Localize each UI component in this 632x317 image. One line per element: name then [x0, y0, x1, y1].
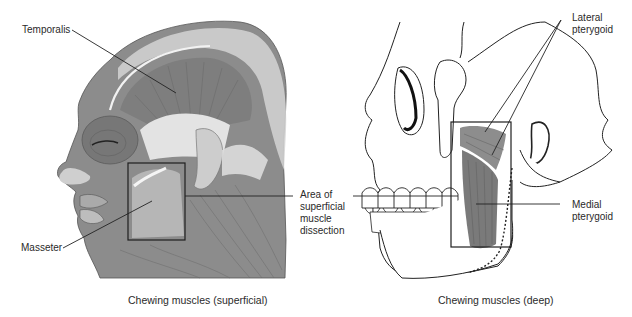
caption-deep: Chewing muscles (deep): [438, 294, 554, 306]
caption-superficial: Chewing muscles (superficial): [128, 294, 267, 306]
dissection-line-4: dissection: [300, 225, 345, 237]
label-masseter: Masseter: [21, 242, 62, 254]
lateral-pterygoid-line-1: Lateral: [572, 12, 613, 24]
dissection-line-2: superficial: [300, 201, 345, 213]
medial-pterygoid-line-2: pterygoid: [572, 211, 613, 223]
label-temporalis: Temporalis: [22, 24, 70, 36]
dissection-line-3: muscle: [300, 213, 345, 225]
label-lateral-pterygoid: Lateral pterygoid: [572, 12, 613, 36]
label-medial-pterygoid: Medial pterygoid: [572, 199, 613, 223]
anatomy-illustration: [0, 0, 632, 317]
superficial-head-illustration: [57, 21, 286, 278]
deep-skull-illustration: [362, 22, 612, 278]
label-area-of-dissection: Area of superficial muscle dissection: [300, 189, 345, 237]
lateral-pterygoid-line-2: pterygoid: [572, 24, 613, 36]
medial-pterygoid-line-1: Medial: [572, 199, 613, 211]
dissection-line-1: Area of: [300, 189, 345, 201]
